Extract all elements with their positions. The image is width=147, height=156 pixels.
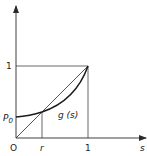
generating-function-diagram: 1 P0 O r 1 s g (s) (0, 0, 147, 156)
x-axis-label: s (140, 143, 145, 153)
origin-label: O (10, 143, 17, 153)
x-tick-one: 1 (85, 143, 91, 153)
diagonal-line (16, 66, 88, 138)
x-tick-r: r (40, 143, 45, 153)
y-tick-one: 1 (6, 61, 12, 71)
p0-label: P0 (3, 113, 13, 125)
curve-label: g (s) (58, 110, 78, 120)
